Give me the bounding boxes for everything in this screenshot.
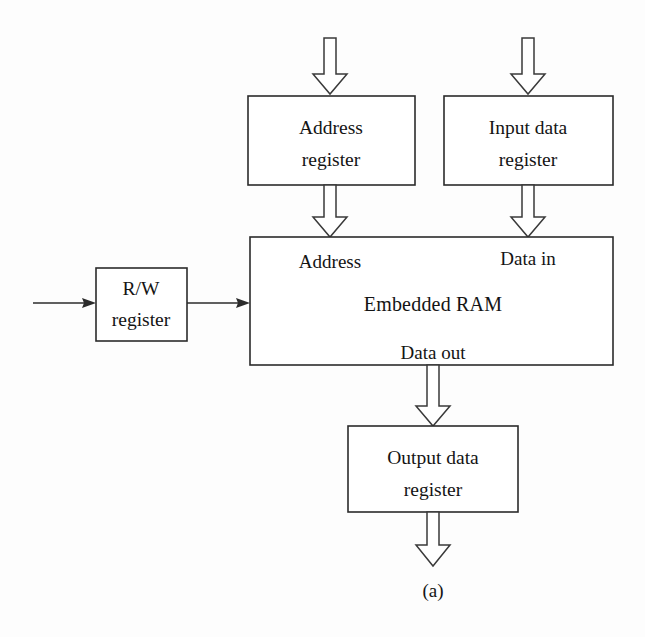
address-register-label-line2: register — [302, 149, 361, 170]
address-register-block — [248, 96, 415, 185]
output-data-register-label-line2: register — [404, 479, 463, 500]
rw-to-ram-arrow — [187, 298, 250, 308]
address-to-ram-arrow — [313, 185, 347, 237]
figure-container: Address register Input data register R/W… — [0, 0, 645, 637]
input-data-register-label-line2: register — [499, 149, 558, 170]
ram-port-data-out-label: Data out — [401, 342, 467, 363]
output-data-arrow — [416, 512, 450, 566]
output-data-register-label-line1: Output data — [387, 447, 479, 468]
input-data-to-ram-arrow — [511, 185, 545, 237]
embedded-ram-title: Embedded RAM — [364, 293, 503, 315]
block-diagram: Address register Input data register R/W… — [0, 0, 645, 637]
address-register-label-line1: Address — [299, 117, 363, 138]
address-input-arrow — [313, 38, 347, 94]
rw-external-input-arrow — [33, 298, 96, 308]
data-out-to-output-register-arrow — [416, 365, 450, 426]
input-data-register-block — [444, 96, 613, 185]
input-data-register-label-line1: Input data — [489, 117, 568, 138]
figure-caption: (a) — [422, 580, 443, 602]
ram-port-address-label: Address — [299, 251, 361, 272]
rw-register-label-line1: R/W — [123, 278, 160, 299]
rw-register-label-line2: register — [112, 309, 171, 330]
ram-port-data-in-label: Data in — [500, 248, 556, 269]
data-input-arrow — [511, 38, 545, 94]
